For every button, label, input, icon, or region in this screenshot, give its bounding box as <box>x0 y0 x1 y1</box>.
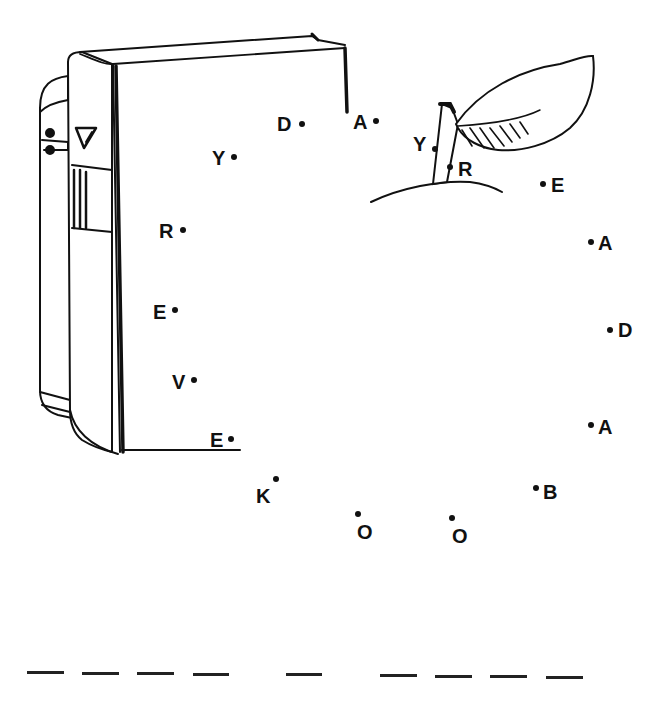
connect-dot[interactable] <box>172 307 178 313</box>
connect-dot[interactable] <box>449 515 455 521</box>
dot-letter-label: K <box>256 486 270 506</box>
connect-dot[interactable] <box>228 436 234 442</box>
dot-letter-label: A <box>353 112 367 132</box>
connect-dot[interactable] <box>273 476 279 482</box>
connect-dot[interactable] <box>432 146 438 152</box>
dot-letter-label: B <box>543 482 557 502</box>
dot-letter-label: D <box>618 320 632 340</box>
answer-blank[interactable] <box>27 671 64 674</box>
connect-dot[interactable] <box>533 485 539 491</box>
dot-letter-label: A <box>598 233 612 253</box>
answer-blank[interactable] <box>435 675 472 678</box>
answer-blank[interactable] <box>490 675 527 678</box>
connect-dot[interactable] <box>180 227 186 233</box>
dot-letter-label: A <box>598 417 612 437</box>
connect-dot[interactable] <box>231 154 237 160</box>
connect-dot[interactable] <box>191 377 197 383</box>
connect-dot[interactable] <box>355 511 361 517</box>
connect-dot[interactable] <box>588 422 594 428</box>
dot-letter-label: Y <box>212 148 225 168</box>
connect-dot[interactable] <box>447 164 453 170</box>
dot-letter-label: D <box>277 114 291 134</box>
dot-letter-label: O <box>357 522 373 542</box>
answer-blank[interactable] <box>137 672 174 675</box>
dot-letter-label: O <box>452 526 468 546</box>
dot-letter-label: Y <box>413 134 426 154</box>
book-drawing <box>40 34 347 454</box>
dot-letter-label: E <box>153 302 166 322</box>
dot-letter-label: R <box>159 221 173 241</box>
dot-letter-label: E <box>210 430 223 450</box>
dot-letter-label: V <box>172 372 185 392</box>
connect-dot[interactable] <box>588 239 594 245</box>
answer-blank[interactable] <box>380 674 417 677</box>
connect-dot[interactable] <box>540 181 546 187</box>
connect-dot[interactable] <box>607 327 613 333</box>
dot-letter-label: E <box>551 175 564 195</box>
connect-dot[interactable] <box>299 121 305 127</box>
dot-letter-label: R <box>458 159 472 179</box>
answer-blank[interactable] <box>82 672 119 675</box>
connect-dot[interactable] <box>373 118 379 124</box>
worksheet-illustration <box>0 0 669 707</box>
answer-blank[interactable] <box>286 673 322 676</box>
answer-blank[interactable] <box>546 676 583 679</box>
answer-blank[interactable] <box>193 673 229 676</box>
